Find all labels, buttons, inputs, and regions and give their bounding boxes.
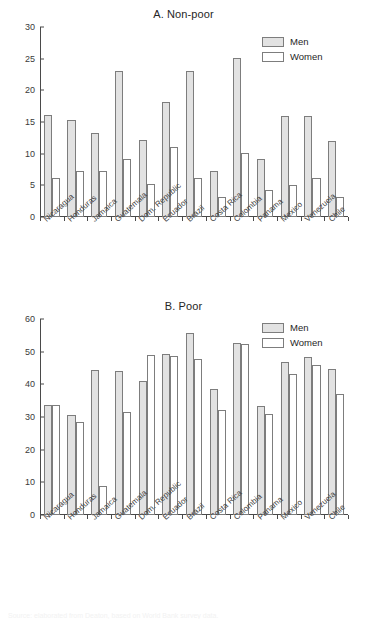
x-axis-tick-mark bbox=[158, 515, 159, 519]
x-axis-tick-mark bbox=[253, 217, 254, 221]
y-axis-tick-label: 50 bbox=[25, 347, 40, 357]
y-axis-tick-label: 30 bbox=[25, 412, 40, 422]
x-axis-tick-mark bbox=[253, 515, 254, 519]
bar-women bbox=[241, 344, 249, 515]
legend-label-women: Women bbox=[290, 51, 323, 62]
figure-two-panel-bar-charts: A. Non-poor 051015202530 NicaraguaHondur… bbox=[0, 0, 367, 623]
y-axis-tick-label: 10 bbox=[25, 477, 40, 487]
bar-group bbox=[206, 319, 230, 515]
x-axis-tick-mark bbox=[230, 217, 231, 221]
bar-group bbox=[135, 27, 159, 217]
legend-swatch-men-icon bbox=[262, 323, 284, 333]
bar-group bbox=[87, 319, 111, 515]
x-axis-tick-mark bbox=[182, 217, 183, 221]
legend-row-women: Women bbox=[262, 51, 323, 62]
legend-swatch-women-icon bbox=[262, 338, 284, 348]
bar-women bbox=[194, 359, 202, 515]
bar-men bbox=[115, 371, 123, 515]
bar-group bbox=[40, 319, 64, 515]
panel-non-poor: A. Non-poor 051015202530 NicaraguaHondur… bbox=[0, 0, 367, 300]
bar-men bbox=[304, 116, 312, 217]
bar-men bbox=[328, 141, 336, 217]
legend-poor: Men Women bbox=[262, 322, 323, 352]
x-axis-tick-mark bbox=[301, 217, 302, 221]
panel-a-title: A. Non-poor bbox=[0, 8, 367, 20]
y-axis-tick-label: 60 bbox=[25, 314, 40, 324]
bar-women bbox=[312, 365, 320, 515]
legend-non-poor: Men Women bbox=[262, 36, 323, 66]
y-axis-tick-label: 30 bbox=[25, 22, 40, 32]
legend-label-women: Women bbox=[290, 337, 323, 348]
x-axis-tick-mark bbox=[64, 515, 65, 519]
x-axis-tick-mark bbox=[348, 515, 349, 519]
bar-men bbox=[186, 71, 194, 217]
bar-group bbox=[111, 27, 135, 217]
bar-women bbox=[336, 394, 344, 515]
legend-row-men: Men bbox=[262, 36, 323, 47]
bar-men bbox=[186, 333, 194, 515]
x-axis-tick-mark bbox=[87, 515, 88, 519]
bar-men bbox=[115, 71, 123, 217]
bar-women bbox=[289, 374, 297, 515]
bar-group bbox=[135, 319, 159, 515]
x-axis-tick-mark bbox=[206, 515, 207, 519]
bar-women bbox=[147, 355, 155, 515]
x-axis-tick-mark bbox=[301, 515, 302, 519]
x-axis-tick-mark bbox=[87, 217, 88, 221]
bar-group bbox=[64, 319, 88, 515]
x-axis-tick-mark bbox=[40, 217, 41, 221]
legend-swatch-men-icon bbox=[262, 37, 284, 47]
bar-men bbox=[139, 140, 147, 217]
panel-poor: B. Poor 0102030405060 NicaraguaHondurasJ… bbox=[0, 292, 367, 602]
legend-label-men: Men bbox=[290, 322, 308, 333]
bar-group bbox=[40, 27, 64, 217]
figure-caption: Source: elaborated from Deaton, based on… bbox=[8, 612, 360, 619]
y-axis-tick-label: 20 bbox=[25, 85, 40, 95]
panel-b-title: B. Poor bbox=[0, 300, 367, 312]
x-axis-tick-mark bbox=[111, 515, 112, 519]
legend-label-men: Men bbox=[290, 36, 308, 47]
x-axis-tick-mark bbox=[182, 515, 183, 519]
x-axis-tick-mark bbox=[111, 217, 112, 221]
bar-men bbox=[304, 357, 312, 515]
bar-group bbox=[206, 27, 230, 217]
bar-group bbox=[182, 319, 206, 515]
y-axis-tick-label: 0 bbox=[30, 212, 40, 222]
bar-group bbox=[324, 27, 348, 217]
x-axis-tick-mark bbox=[230, 515, 231, 519]
x-axis-tick-mark bbox=[277, 217, 278, 221]
y-axis-tick-label: 20 bbox=[25, 445, 40, 455]
x-axis-tick-mark bbox=[277, 515, 278, 519]
y-axis-tick-label: 25 bbox=[25, 54, 40, 64]
y-axis-tick-label: 5 bbox=[30, 180, 40, 190]
y-axis-tick-label: 40 bbox=[25, 379, 40, 389]
bar-group bbox=[230, 319, 254, 515]
bar-men bbox=[44, 405, 52, 515]
bar-group bbox=[64, 27, 88, 217]
legend-row-women: Women bbox=[262, 337, 323, 348]
bar-group bbox=[324, 319, 348, 515]
x-axis-tick-mark bbox=[158, 217, 159, 221]
x-axis-tick-mark bbox=[324, 515, 325, 519]
y-axis-tick-label: 15 bbox=[25, 117, 40, 127]
bar-group bbox=[111, 319, 135, 515]
bar-group bbox=[230, 27, 254, 217]
legend-swatch-women-icon bbox=[262, 52, 284, 62]
x-axis-tick-mark bbox=[40, 515, 41, 519]
bar-men bbox=[281, 362, 289, 515]
bar-men bbox=[44, 115, 52, 217]
bar-group bbox=[87, 27, 111, 217]
legend-row-men: Men bbox=[262, 322, 323, 333]
bar-group bbox=[182, 27, 206, 217]
x-axis-tick-mark bbox=[135, 515, 136, 519]
x-axis-tick-mark bbox=[135, 217, 136, 221]
x-axis-tick-mark bbox=[64, 217, 65, 221]
y-axis-tick-label: 0 bbox=[30, 510, 40, 520]
x-axis-tick-mark bbox=[324, 217, 325, 221]
bar-men bbox=[210, 389, 218, 515]
y-axis-tick-label: 10 bbox=[25, 149, 40, 159]
x-axis-tick-mark bbox=[206, 217, 207, 221]
x-axis-tick-mark bbox=[348, 217, 349, 221]
